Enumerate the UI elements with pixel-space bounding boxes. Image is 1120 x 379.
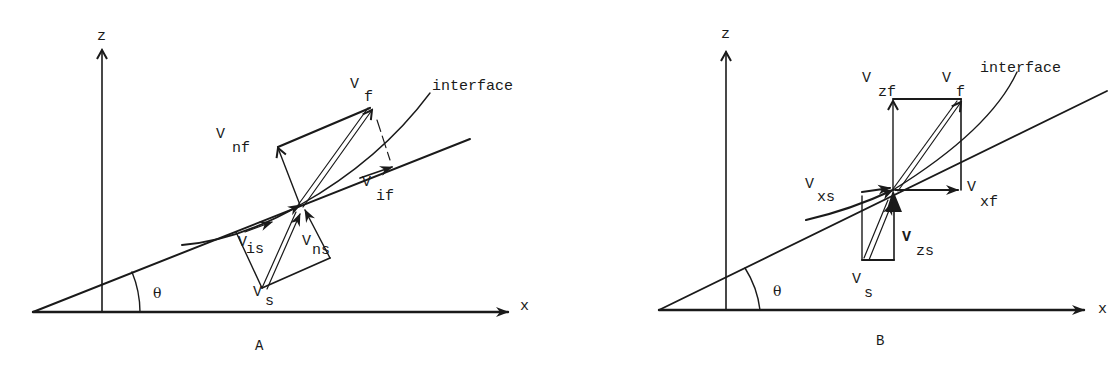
svg-text:is: is [246, 241, 264, 258]
vnf-arrow [278, 148, 300, 205]
svg-text:if: if [376, 188, 394, 205]
panel-b: z x θ interface V zf [659, 26, 1107, 349]
diagram-canvas: z x θ interface V [0, 0, 1120, 379]
svg-text:xf: xf [980, 194, 998, 211]
label-vns: V ns [302, 233, 330, 259]
svg-text:V: V [362, 174, 371, 191]
panel-a-caption: A [255, 338, 264, 354]
label-vf: V f [350, 76, 373, 106]
label-vzf: V zf [862, 70, 896, 101]
angle-label: θ [773, 283, 781, 299]
vs-line-2 [869, 203, 892, 260]
x-axis-label: x [1098, 301, 1107, 318]
label-vis: V is [238, 234, 264, 258]
panel-a: z x θ interface V [33, 28, 529, 354]
svg-text:V: V [805, 176, 814, 193]
label-vxf: V xf [967, 179, 998, 211]
svg-text:f: f [364, 89, 373, 106]
svg-text:V: V [350, 76, 359, 93]
angle-arc [132, 272, 140, 312]
panel-b-caption: B [876, 333, 884, 349]
svg-text:V: V [942, 70, 951, 87]
label-vs: V s [852, 271, 873, 302]
svg-text:s: s [265, 293, 274, 310]
vf-line-1 [893, 101, 957, 189]
svg-text:zs: zs [916, 243, 934, 260]
svg-text:V: V [862, 70, 871, 87]
svg-text:f: f [956, 84, 965, 101]
z-axis-label: z [97, 28, 106, 45]
z-axis-label: z [721, 26, 730, 43]
label-vnf: V nf [216, 126, 250, 157]
x-axis-label: x [520, 298, 529, 315]
svg-text:V: V [902, 229, 911, 246]
svg-text:ns: ns [312, 242, 330, 259]
label-vf: V f [942, 70, 965, 101]
svg-text:s: s [864, 285, 873, 302]
interface-label: interface [432, 78, 513, 95]
svg-text:V: V [967, 179, 976, 196]
label-vif: V if [362, 174, 394, 205]
svg-text:zf: zf [878, 84, 896, 101]
angle-arc [745, 268, 760, 310]
interface-label: interface [980, 60, 1061, 77]
svg-text:V: V [302, 233, 311, 250]
svg-text:nf: nf [232, 140, 250, 157]
angle-label: θ [153, 285, 161, 301]
vxs-arrow [862, 188, 890, 192]
svg-text:V: V [216, 126, 225, 143]
vs-parallelogram-bottom [262, 258, 330, 288]
svg-text:V: V [253, 284, 262, 301]
vf-parallelogram-top [278, 108, 370, 147]
label-vxs: V xs [805, 176, 835, 206]
svg-text:V: V [852, 271, 861, 288]
slope-line [33, 139, 470, 312]
svg-text:xs: xs [817, 189, 835, 206]
label-vzs: V zs [902, 229, 934, 260]
